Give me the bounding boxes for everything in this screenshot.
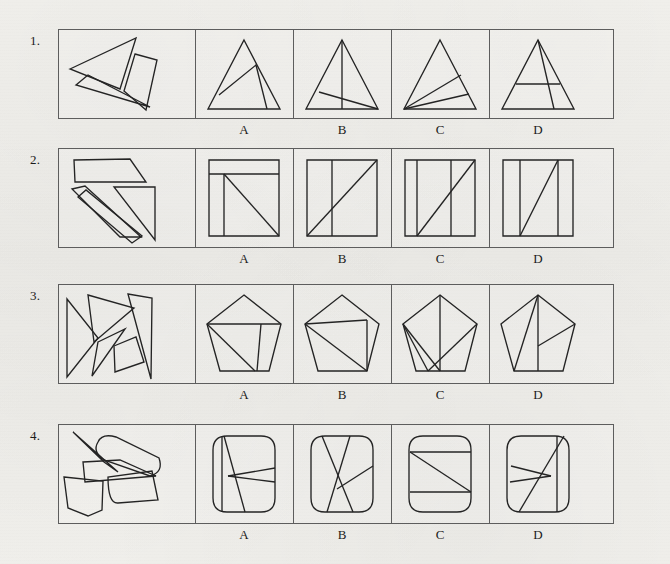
scattered-rounded-square-pieces-stroke (73, 432, 118, 472)
option-letter-b-row-4[interactable]: B (327, 527, 357, 543)
option-letter-d-row-3[interactable]: D (523, 387, 553, 403)
rounded-square-option-d-stroke (510, 476, 551, 482)
square-option-a-stroke (224, 174, 279, 236)
option-letter-c-row-1[interactable]: C (425, 122, 455, 138)
scattered-rounded-square-pieces-stroke (83, 460, 156, 482)
rounded-square-option-b (293, 424, 391, 524)
triangle-option-d (489, 29, 587, 119)
row-number-label: 3. (30, 288, 40, 304)
square-option-d-stroke (503, 160, 573, 236)
rounded-square-option-d-stroke (507, 436, 569, 512)
scattered-square-pieces-stroke (74, 159, 146, 182)
pentagon-option-b-stroke (305, 324, 367, 371)
pentagon-option-d-stroke (514, 295, 538, 371)
option-letter-b-row-3[interactable]: B (327, 387, 357, 403)
rounded-square-option-b-stroke (311, 436, 373, 512)
triangle-option-a (195, 29, 293, 119)
scattered-triangle-pieces (58, 29, 195, 119)
pentagon-option-c (391, 284, 489, 384)
triangle-option-d-stroke (502, 40, 574, 109)
rounded-square-option-b-stroke (327, 436, 350, 512)
pentagon-option-a-stroke (257, 324, 261, 371)
pentagon-option-b-stroke (305, 320, 367, 324)
option-letter-a-row-1[interactable]: A (229, 122, 259, 138)
rounded-square-option-b-stroke (322, 436, 353, 512)
pentagon-option-a (195, 284, 293, 384)
row-number-label: 1. (30, 33, 40, 49)
rounded-square-option-a (195, 424, 293, 524)
option-letter-a-row-2[interactable]: A (229, 251, 259, 267)
row-number-label: 4. (30, 428, 40, 444)
option-letter-a-row-4[interactable]: A (229, 527, 259, 543)
triangle-option-d-stroke (538, 40, 554, 109)
option-letter-a-row-3[interactable]: A (229, 387, 259, 403)
scattered-rounded-square-pieces-stroke (96, 436, 160, 476)
square-option-b-stroke (307, 160, 377, 236)
triangle-option-c-stroke (404, 94, 469, 109)
puzzle-row-4 (58, 424, 614, 524)
rounded-square-option-b-stroke (337, 466, 373, 489)
rounded-square-option-a-stroke (228, 476, 275, 482)
scattered-pentagon-pieces (58, 284, 195, 384)
square-option-b (293, 148, 391, 248)
scattered-square-pieces (58, 148, 195, 248)
scattered-triangle-pieces-stroke (76, 75, 150, 107)
triangle-option-b (293, 29, 391, 119)
rounded-square-option-c-stroke (410, 452, 471, 492)
pentagon-option-c-stroke (428, 324, 477, 371)
option-letter-c-row-3[interactable]: C (425, 387, 455, 403)
rounded-square-option-d (489, 424, 587, 524)
option-letter-d-row-4[interactable]: D (523, 527, 553, 543)
square-option-a (195, 148, 293, 248)
square-option-d (489, 148, 587, 248)
option-letter-d-row-2[interactable]: D (523, 251, 553, 267)
triangle-option-c (391, 29, 489, 119)
option-letter-b-row-2[interactable]: B (327, 251, 357, 267)
square-option-c (391, 148, 489, 248)
option-letter-b-row-1[interactable]: B (327, 122, 357, 138)
scattered-square-pieces-stroke (78, 190, 142, 243)
option-letter-d-row-1[interactable]: D (523, 122, 553, 138)
puzzle-row-3 (58, 284, 614, 384)
square-option-c-stroke (417, 160, 475, 236)
option-letter-c-row-4[interactable]: C (425, 527, 455, 543)
rounded-square-option-c (391, 424, 489, 524)
puzzle-row-2 (58, 148, 614, 248)
square-option-d-stroke (520, 160, 558, 236)
rounded-square-option-c-stroke (409, 436, 471, 512)
triangle-option-b-stroke (319, 92, 378, 109)
option-letter-c-row-2[interactable]: C (425, 251, 455, 267)
worksheet-page: 1.ABCD2.ABCD3.ABCD4.ABCD (0, 0, 670, 564)
pentagon-option-d (489, 284, 587, 384)
puzzle-row-1 (58, 29, 614, 119)
row-number-label: 2. (30, 152, 40, 168)
triangle-option-c-stroke (404, 40, 476, 109)
rounded-square-option-a-stroke (228, 468, 275, 476)
scattered-pentagon-pieces-stroke (114, 337, 144, 372)
scattered-rounded-square-pieces (58, 424, 195, 524)
square-option-c-stroke (405, 160, 475, 236)
scattered-rounded-square-pieces-stroke (64, 477, 103, 516)
pentagon-option-c-stroke (403, 324, 428, 371)
pentagon-option-d-stroke (538, 324, 575, 346)
pentagon-option-b (293, 284, 391, 384)
